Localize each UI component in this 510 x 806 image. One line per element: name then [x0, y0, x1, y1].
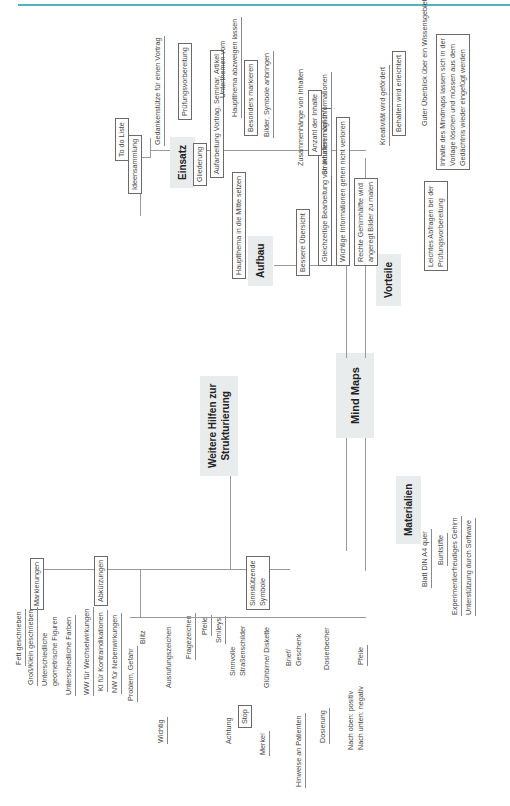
symbol-item: Dosierbecher — [322, 627, 332, 670]
vorteile-item: Bessere Übersicht — [296, 209, 310, 276]
markierungen-item: Fett geschrieben — [14, 609, 26, 666]
center-node: Mind Maps — [336, 353, 374, 438]
einsatz-item-gliederung: Gliederung — [193, 143, 207, 186]
connector — [365, 438, 366, 571]
aufbau-child: Unterthemen vom — [218, 41, 228, 98]
aufbau-child: Besonders markieren — [244, 60, 258, 136]
symbol-item: Blitz — [138, 630, 148, 644]
center-label: Mind Maps — [349, 367, 361, 424]
aufbau-child: Bilder, Symbole anbringen — [262, 51, 274, 138]
symbol-meaning: Hinweise an Patienten — [294, 713, 306, 788]
hub-weitere-hilfen: Weitere Hilfen zurStrukturierung — [200, 376, 238, 476]
symbol-item: Smileys — [214, 616, 226, 644]
vorteile-child: Strukturieren von Informationen — [320, 72, 332, 176]
materialien-item: Buntstifte — [436, 533, 448, 566]
hub-einsatz: Einsatz — [170, 137, 195, 188]
einsatz-item: Ideensammlung — [128, 135, 142, 194]
einsatz-item: To do Liste — [115, 118, 129, 161]
abkuerzungen-item: WW für Wechselwirkungen — [82, 607, 94, 696]
symbol-item: Brief/Geschenk — [284, 634, 304, 666]
symbol-item: Glühbirne/ Diskette — [262, 627, 272, 688]
materialien-item: Unterstützung durch Software — [464, 518, 476, 616]
symbole-node: SinnstützendeSymbole — [246, 556, 270, 610]
abkuerzungen-item: NW für Nebenwirkungen — [110, 613, 122, 694]
hub-label: Materialien — [403, 484, 414, 536]
symbol-item: Fragezeichen — [184, 613, 196, 660]
symbol-item: Ausrufungszeichen — [164, 627, 174, 688]
hub-label: Aufbau — [255, 244, 266, 278]
symbol-item: Stop — [238, 705, 252, 728]
gliederung-child: Gedankenstütze für einen Vortrag — [153, 36, 165, 146]
aufbau-item: Hauptthema in die Mitte setzen — [232, 172, 246, 279]
symbol-item: Pfeile — [200, 615, 212, 636]
symbol-item: Pfeile — [356, 645, 368, 666]
vorteile-child: Zusammenhänge von Inhalten — [296, 69, 306, 166]
connector — [140, 570, 141, 618]
hub-aufbau: Aufbau — [248, 236, 273, 286]
connector — [230, 476, 231, 570]
abkuerzungen-item: KI für Kontraindikationen — [96, 610, 108, 692]
symbol-item: SinnvolleStraßenschilder — [228, 626, 248, 676]
markierungen-item: Groß/Klein geschrieben — [26, 607, 38, 686]
markierungen-item: Unterschiedliche Farben — [64, 615, 76, 696]
hub-label: Vorteile — [383, 262, 394, 298]
materialien-item: Blatt DIN A4 quer — [420, 529, 432, 588]
vorteile-child: Guter Überblick über ein Wissensgebiet — [420, 0, 430, 126]
abkuerzungen-node: Abkürzungen — [94, 556, 108, 606]
connector — [346, 438, 347, 551]
symbol-meaning: Wichtig — [156, 717, 168, 744]
vorteile-item: Wichtige Informationen gehen nicht verlo… — [336, 117, 350, 266]
vorteile-item: Leichtes Abfragen bei derPrüfungsvorbere… — [424, 181, 448, 271]
hub-vorteile: Vorteile — [376, 254, 401, 306]
vorteile-child: Kreativität wird gefördert — [378, 65, 390, 146]
vorteile-child: Behalten wird erleichtert — [392, 51, 406, 136]
vorteile-child: Inhalte des Mindmaps lassen sich in derV… — [436, 34, 470, 170]
symbol-meaning: Merke! — [258, 731, 270, 756]
symbol-meaning: Nach oben: positivNach unten: negativ — [346, 686, 366, 750]
symbol-meaning: Achtung — [224, 718, 234, 744]
mindmap-canvas: Mind Maps Einsatz Ideensammlung To do Li… — [0, 0, 510, 806]
hub-materialien: Materialien — [396, 476, 421, 544]
vorteile-item: Rechte Gehirnhälfte wirdangeregt Bilder … — [354, 178, 378, 266]
symbol-meaning: Problem, Gefahr — [126, 646, 138, 702]
aufbau-child: Hauptthema abzweigen lassen — [230, 17, 242, 118]
connector — [130, 617, 366, 618]
gliederung-child: Prüfungsvorbereitung — [178, 43, 192, 120]
markierungen-node: Markierungen — [30, 558, 44, 610]
markierungen-item: Unterschiedlichegeometrische Figuren — [40, 616, 60, 686]
symbol-meaning: Dosierung — [318, 708, 330, 744]
connector — [150, 138, 151, 158]
materialien-item: Experimentierfreudiges Gehirn — [450, 516, 462, 616]
hub-label: Einsatz — [177, 145, 188, 180]
